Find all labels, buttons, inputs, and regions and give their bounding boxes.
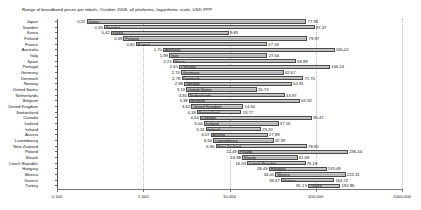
category-label: Slovak	[25, 155, 38, 160]
min-value-label: 4,18	[187, 110, 196, 115]
range-bar[interactable]: Finland	[123, 36, 307, 40]
bar-inline-label: United Kingdom	[193, 105, 221, 108]
chart-row: Iceland5,04Iceland37,16	[57, 121, 402, 126]
chart-row: Ireland5,31Ireland23,20	[57, 127, 402, 132]
category-label: Finland	[24, 36, 38, 41]
range-bar[interactable]: New Zealand	[216, 144, 307, 148]
bar-inline-label: Luxembourg	[215, 139, 237, 142]
range-bar[interactable]: Greece	[281, 178, 334, 182]
range-bar[interactable]: United States	[186, 87, 257, 91]
category-label: Ireland	[25, 127, 38, 132]
min-value-label: 0,82	[126, 42, 135, 47]
x-axis-tick	[402, 189, 403, 192]
chart-row: United States3,13United States20,74	[57, 87, 402, 92]
max-value-label: 77,94	[306, 19, 318, 24]
category-label: Italy	[30, 53, 38, 58]
category-label: Austria	[25, 132, 38, 137]
min-value-label: 3,62	[182, 104, 191, 109]
max-value-label: 165,02	[335, 47, 349, 52]
bar-inline-label: Spain	[175, 60, 185, 63]
range-bar[interactable]: Korea	[111, 31, 229, 35]
min-value-label: 6,50	[204, 138, 213, 143]
x-axis-label: 10,000	[223, 194, 236, 199]
y-axis-tick	[55, 163, 57, 164]
range-bar[interactable]: Italy	[169, 53, 267, 57]
category-label: Germany	[21, 70, 38, 75]
bar-inline-label: United States	[188, 88, 212, 91]
bar-inline-label: Finland	[125, 37, 138, 40]
bar-inline-label: Slovak	[244, 156, 256, 159]
chart-row: United Kingdom3,62United Kingdom14,50	[57, 104, 402, 109]
chart-row: Korea0,42Korea9,83	[57, 30, 402, 35]
range-bar[interactable]: Norway	[184, 82, 292, 86]
min-value-label: 2,61	[170, 64, 179, 69]
bar-inline-label: Canada	[202, 116, 216, 119]
chart-row: Italy1,99Italy27,54	[57, 53, 402, 58]
range-bar[interactable]: Belgium	[189, 99, 300, 103]
min-value-label: 0,35	[95, 25, 104, 30]
range-bar[interactable]: Japan	[87, 19, 307, 23]
max-value-label: 76,18	[306, 161, 318, 166]
y-axis-tick	[55, 21, 57, 22]
max-value-label: 71,70	[303, 76, 315, 81]
range-bar[interactable]: Ireland	[206, 127, 261, 131]
range-bar[interactable]: United Kingdom	[191, 104, 243, 108]
range-bar[interactable]: Iceland	[204, 121, 279, 125]
min-value-label: 2,78	[172, 76, 181, 81]
range-bar[interactable]: Germany	[181, 70, 284, 74]
min-value-label: 4,54	[191, 115, 200, 120]
range-bar[interactable]: Turkey	[308, 184, 340, 188]
category-label: United States	[13, 87, 38, 92]
bar-inline-label: France	[138, 43, 150, 46]
range-bar[interactable]: Poland	[238, 150, 348, 154]
bar-inline-label: Austria	[213, 133, 225, 136]
range-bar[interactable]: France	[136, 42, 267, 46]
category-label: Iceland	[24, 121, 38, 126]
category-label: Hungary	[22, 166, 38, 171]
range-bar[interactable]: Luxembourg	[213, 138, 273, 142]
min-value-label: 81,13	[296, 183, 308, 188]
category-label: Switzerland	[16, 110, 38, 115]
range-bar[interactable]: Netherlands	[188, 93, 285, 97]
y-axis-tick	[55, 38, 57, 39]
y-axis-tick	[55, 66, 57, 67]
category-label: Spain	[27, 59, 38, 64]
range-bar[interactable]: Austria	[211, 133, 268, 137]
bar-inline-label: Turkey	[310, 184, 322, 187]
chart-row: Belgium3,38Belgium65,92	[57, 98, 402, 103]
chart-title: Range of broadband prices per mbit/s, Oc…	[22, 7, 212, 12]
category-label: Poland	[25, 149, 38, 154]
range-bar[interactable]: Canada	[200, 116, 312, 120]
category-label: United Kingdom	[8, 104, 38, 109]
range-bar[interactable]: Portugal	[179, 65, 330, 69]
range-bar[interactable]: Slovak	[242, 155, 298, 159]
x-axis-tick	[143, 189, 144, 192]
max-value-label: 52,91	[292, 81, 304, 86]
max-value-label: 9,83	[229, 30, 238, 35]
y-axis-tick	[55, 151, 57, 152]
range-bar[interactable]: Hungary	[269, 167, 327, 171]
min-value-label: 12,49	[226, 149, 238, 154]
range-bar[interactable]: Australia	[163, 48, 334, 52]
range-bar[interactable]: Denmark	[182, 76, 304, 80]
bar-inline-label: Mexico	[277, 173, 290, 176]
range-bar[interactable]: Czech Republic	[247, 161, 305, 165]
min-value-label: 2,74	[172, 70, 181, 75]
range-bar[interactable]: Switzerland	[197, 110, 242, 114]
y-axis-tick	[55, 117, 57, 118]
category-label: Canada	[23, 115, 38, 120]
y-axis-tick	[55, 44, 57, 45]
y-axis-tick	[55, 134, 57, 135]
range-bar[interactable]: Sweden	[104, 25, 315, 29]
bar-inline-label: Germany	[183, 71, 199, 74]
category-label: Luxembourg	[15, 138, 38, 143]
bar-inline-label: Ireland	[208, 128, 220, 131]
category-label: Japan	[27, 19, 38, 24]
y-axis-tick	[55, 27, 57, 28]
min-value-label: 13,98	[230, 155, 242, 160]
range-bar[interactable]: Spain	[173, 59, 296, 63]
chart-row: Austria6,07Austria27,89	[57, 132, 402, 137]
range-bar[interactable]: Mexico	[275, 172, 345, 176]
min-value-label: 3,13	[177, 87, 186, 92]
category-label: Greece	[24, 178, 38, 183]
